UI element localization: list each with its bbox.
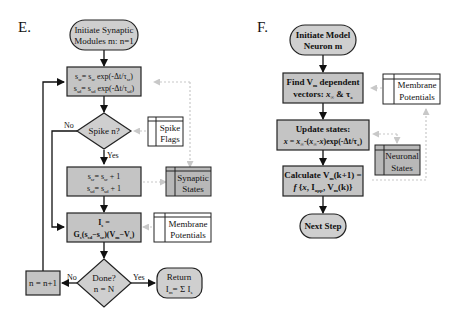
node-initiate-synaptic: Initiate Synaptic Modules m: n=1 bbox=[70, 20, 138, 50]
arrow-loop-back bbox=[43, 82, 64, 271]
store-membrane-potentials-f: Membrane Potentials bbox=[383, 74, 440, 104]
store-membrane-potentials-f-line1: Membrane bbox=[398, 80, 437, 90]
edge-label-spike-yes: Yes bbox=[107, 151, 119, 160]
node-initiate-synaptic-line2: Modules m: n=1 bbox=[74, 36, 134, 46]
store-spike-flags-line1: Spike bbox=[160, 123, 181, 133]
node-initiate-model: Initiate Model Neuron m bbox=[290, 25, 356, 55]
node-synaptic-current: Is = Gs(ssd−ssr)(Vm−Vs) bbox=[67, 213, 141, 242]
node-update-states-line2: x = x∞-(x∞-x)exp(-Δt/τx) bbox=[283, 137, 363, 147]
node-initiate-synaptic-line1: Initiate Synaptic bbox=[74, 25, 133, 35]
node-next-step-text: Next Step bbox=[304, 221, 341, 231]
node-calculate-vm-line2: f {x, Iapp, Vm(k)} bbox=[294, 182, 353, 193]
node-synaptic-decay: ssr= ssr exp(-Δt/τsr) ssd= ssd exp(-Δt/τ… bbox=[67, 67, 141, 96]
node-find-vectors-line1: Find Vm dependent bbox=[286, 77, 359, 88]
store-membrane-potentials-e: Membrane Potentials bbox=[154, 213, 211, 242]
edge-label-done-no: No bbox=[67, 273, 77, 282]
node-increment-n: n = n+1 bbox=[26, 271, 60, 295]
node-calculate-vm: Calculate Vm(k+1) = f {x, Iapp, Vm(k)} bbox=[283, 166, 363, 196]
panel-e: E. Initiate Synaptic Modules m: n=1 bbox=[18, 19, 211, 307]
decision-done: Done? n = N bbox=[77, 259, 131, 307]
node-return-line1: Return bbox=[167, 272, 192, 282]
panel-e-data-arrows bbox=[134, 82, 190, 227]
panel-f-label: F. bbox=[257, 19, 268, 35]
decision-spike-text: Spike n? bbox=[88, 126, 119, 136]
node-update-states: Update states: x = x∞-(x∞-x)exp(-Δt/τx) bbox=[277, 120, 369, 150]
decision-done-line1: Done? bbox=[92, 273, 116, 283]
node-find-vectors: Find Vm dependent vectors: x∞ & τx bbox=[283, 73, 363, 103]
store-membrane-potentials-f-line2: Potentials bbox=[399, 92, 435, 102]
decision-spike: Spike n? bbox=[77, 113, 131, 149]
node-initiate-model-line1: Initiate Model bbox=[296, 30, 351, 40]
edge-label-done-yes: Yes bbox=[133, 273, 145, 282]
decay-eq-rise: ssr= ssr exp(-Δt/τsr) bbox=[75, 72, 133, 82]
store-neuronal-states-line2: States bbox=[391, 163, 413, 173]
node-find-vectors-line2: vectors: x∞ & τx bbox=[293, 89, 353, 100]
node-calculate-vm-line1: Calculate Vm(k+1) = bbox=[284, 170, 361, 181]
store-membrane-potentials-e-line1: Membrane bbox=[169, 219, 208, 229]
decay-eq-decay: ssd= ssd exp(-Δt/τsd) bbox=[74, 84, 135, 94]
panel-e-label: E. bbox=[18, 19, 31, 35]
current-eq-line2: Gs(ssd−ssr)(Vm−Vs) bbox=[74, 230, 135, 240]
node-next-step: Next Step bbox=[300, 214, 346, 238]
flowchart-canvas: E. Initiate Synaptic Modules m: n=1 bbox=[0, 0, 459, 331]
node-update-states-line1: Update states: bbox=[296, 124, 351, 134]
current-eq-line1: Is = bbox=[98, 218, 110, 228]
node-return: Return Im= Σ Is bbox=[157, 268, 202, 298]
store-neuronal-states-line1: Neuronal bbox=[385, 151, 419, 161]
node-increment: ssr= ssr + 1 ssd= ssd + 1 bbox=[67, 167, 141, 196]
store-spike-flags-line2: Flags bbox=[160, 134, 180, 144]
node-initiate-model-line2: Neuron m bbox=[304, 41, 343, 51]
store-synaptic-states-line2: States bbox=[182, 184, 204, 194]
store-synaptic-states-line1: Synaptic bbox=[177, 173, 209, 183]
decision-done-line2: n = N bbox=[94, 284, 115, 294]
store-synaptic-states: Synaptic States bbox=[166, 167, 211, 196]
edge-label-spike-no: No bbox=[64, 121, 74, 130]
store-membrane-potentials-e-line2: Potentials bbox=[170, 230, 206, 240]
node-increment-n-text: n = n+1 bbox=[29, 278, 57, 288]
panel-f: F. Initiate Model Neuron m Find Vm depen… bbox=[257, 19, 440, 238]
store-neuronal-states: Neuronal States bbox=[375, 145, 420, 175]
store-spike-flags: Spike Flags bbox=[148, 117, 183, 146]
